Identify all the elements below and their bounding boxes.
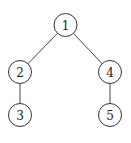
node-label: 3 — [16, 109, 24, 123]
edge-1-2 — [28, 33, 58, 63]
edge-1-4 — [73, 33, 102, 63]
tree-node-2: 2 — [9, 61, 32, 84]
tree-node-4: 4 — [99, 61, 122, 84]
node-label: 5 — [106, 109, 114, 123]
node-label: 1 — [62, 19, 70, 33]
nodes-group: 12345 — [9, 14, 122, 127]
node-label: 2 — [16, 66, 24, 80]
node-label: 4 — [106, 66, 114, 80]
tree-node-3: 3 — [9, 104, 32, 127]
edges-group — [20, 33, 110, 103]
tree-diagram: 12345 — [0, 0, 131, 143]
tree-node-5: 5 — [99, 104, 122, 127]
tree-node-1: 1 — [54, 14, 77, 37]
